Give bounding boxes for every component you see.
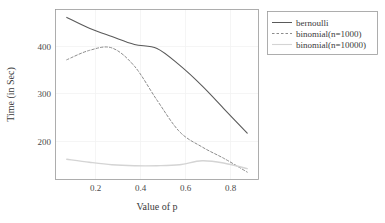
y-axis-title: Time (in Sec) bbox=[5, 67, 17, 122]
legend-label: bernoulli bbox=[296, 18, 329, 28]
y-tick-label: 300 bbox=[38, 89, 52, 99]
plot-panel-background bbox=[56, 10, 259, 180]
x-tick-label: 0.2 bbox=[90, 183, 101, 193]
x-tick-label: 0.6 bbox=[180, 183, 192, 193]
x-tick-label: 0.4 bbox=[135, 183, 147, 193]
x-tick-label: 0.8 bbox=[225, 183, 237, 193]
y-axis-tick-labels: 200 300 400 bbox=[38, 42, 52, 147]
x-axis-tick-labels: 0.2 0.4 0.6 0.8 bbox=[90, 183, 237, 193]
legend: bernoulli binomial(n=1000) binomial(n=10… bbox=[268, 12, 378, 55]
legend-label: binomial(n=10000) bbox=[296, 40, 366, 50]
line-chart-figure: 0.2 0.4 0.6 0.8 200 300 400 Value of p T… bbox=[0, 0, 385, 223]
legend-label: binomial(n=1000) bbox=[296, 29, 362, 39]
x-axis-title: Value of p bbox=[136, 201, 177, 212]
y-tick-label: 200 bbox=[38, 137, 52, 147]
y-tick-label: 400 bbox=[38, 42, 52, 52]
